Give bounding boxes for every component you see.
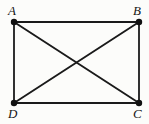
vertex-dot-A [11,19,17,25]
vertex-label-B: B [133,4,141,17]
vertex-label-C: C [133,107,142,120]
vertex-label-D: D [8,107,17,120]
rectangle-diagram [0,0,149,124]
figure-container: A B C D [0,0,149,124]
vertex-dot-B [136,19,142,25]
vertex-label-A: A [8,4,16,17]
